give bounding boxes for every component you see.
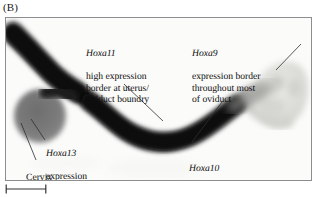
annotation-text-hoxa11: high expression border at uterus/ oviduc… [86,71,194,105]
panel-label: (B) [3,1,18,14]
figure-panel-b: (B) [0,0,317,197]
gene-name-hoxa13: Hoxa13 [46,148,126,159]
annotation-text-cervix: Cervix [26,172,96,181]
annotation-cervix: Cervix [26,161,96,181]
micrograph-frame: Hoxa11 high expression border at uterus/… [5,17,312,181]
gene-name-hoxa10: Hoxa10 [189,163,312,174]
gene-name-hoxa9: Hoxa9 [192,48,312,59]
cervix-neck [46,91,72,97]
annotation-hoxa11: Hoxa11 high expression border at uterus/… [86,37,194,117]
annotation-hoxa9: Hoxa9 expression border throughout most … [192,37,312,117]
gene-name-hoxa11: Hoxa11 [86,48,194,59]
scale-bar [5,183,47,195]
annotation-text-hoxa9: expression border throughout most of ovi… [192,71,312,105]
annotation-hoxa10: Hoxa10 expression border at uterus/ovidu… [189,152,312,181]
